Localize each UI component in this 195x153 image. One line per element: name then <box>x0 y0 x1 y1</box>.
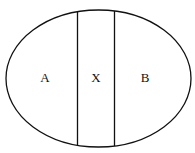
region-label-b: B <box>141 70 150 85</box>
partition-diagram: A X B <box>0 0 195 153</box>
region-label-x: X <box>91 70 101 85</box>
region-label-a: A <box>40 70 50 85</box>
